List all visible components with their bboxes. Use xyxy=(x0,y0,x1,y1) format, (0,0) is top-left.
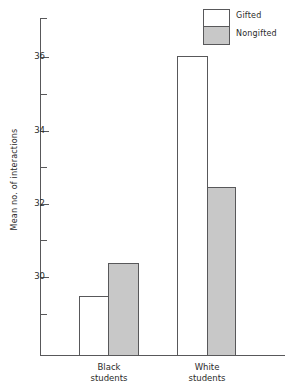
bar-black-nongifted xyxy=(108,263,139,356)
x-group-label-white-line1: White xyxy=(195,362,220,372)
y-axis-title: Mean no. of interactions xyxy=(10,120,19,240)
legend-label-nongifted: Nongifted xyxy=(236,29,277,38)
legend-swatch-gifted xyxy=(204,10,229,27)
x-group-label-white: White students xyxy=(162,362,252,383)
bar-white-nongifted xyxy=(207,187,236,356)
x-group-label-black-line1: Black xyxy=(98,362,121,372)
y-tick-minor-35 xyxy=(41,94,47,95)
y-tick-label-36: 36 xyxy=(23,51,45,61)
y-tick-minor-29 xyxy=(41,314,47,315)
legend-label-gifted: Gifted xyxy=(236,11,261,20)
y-tick-minor-31 xyxy=(41,240,47,241)
x-group-label-black-line2: students xyxy=(64,373,154,383)
bar-chart-figure: Gifted Nongifted 36 34 32 30 Mean no. of… xyxy=(0,0,288,383)
y-tick-label-30: 30 xyxy=(23,271,45,281)
x-axis-line xyxy=(40,355,285,356)
y-tick-label-32: 32 xyxy=(23,198,45,208)
y-axis-top-cap xyxy=(40,18,47,19)
y-axis-line xyxy=(40,18,41,356)
chart-legend: Gifted Nongifted xyxy=(203,9,287,49)
legend-swatch-nongifted xyxy=(204,27,229,44)
legend-swatch-box xyxy=(203,9,230,45)
y-tick-minor-33 xyxy=(41,167,47,168)
bar-white-gifted xyxy=(177,56,208,356)
y-tick-label-34: 34 xyxy=(23,125,45,135)
x-group-label-black: Black students xyxy=(64,362,154,383)
x-group-label-white-line2: students xyxy=(162,373,252,383)
bar-black-gifted xyxy=(79,296,109,356)
